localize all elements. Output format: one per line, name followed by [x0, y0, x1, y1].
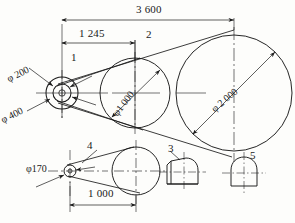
technical-drawing-canvas: 3 600 1 245 1 2 3 4 5 φ 200 φ 400 φ1 000… [0, 0, 295, 223]
leader-phi170 [36, 175, 64, 187]
part-number-4: 4 [87, 140, 93, 151]
dimension-label-1000: 1 000 [88, 188, 114, 199]
leader-phi400 [27, 99, 50, 111]
dimension-label-3600: 3 600 [136, 4, 162, 15]
dimension-label-1245: 1 245 [79, 28, 105, 39]
centerlines-profile-5 [222, 152, 266, 194]
leader-phi200 [29, 68, 53, 86]
diameter-label-170: φ170 [26, 164, 47, 174]
belt-profile-3 [167, 158, 198, 184]
centerlines-profile-3 [159, 152, 206, 191]
part-number-5: 5 [250, 150, 256, 161]
part-number-1: 1 [71, 52, 77, 63]
part-number-2: 2 [146, 29, 152, 40]
part-number-3: 3 [168, 143, 174, 154]
belt-lines-large [58, 30, 234, 157]
